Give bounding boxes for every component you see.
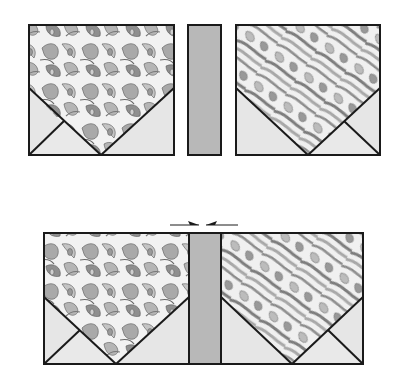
quilt-assembly-diagram (0, 0, 399, 372)
top-right-panel (236, 25, 380, 155)
top-left-panel (29, 25, 174, 155)
assembled-sashing-strip (189, 233, 221, 364)
join-arrows (170, 221, 238, 225)
left-arrowhead-icon (188, 221, 199, 225)
top-sashing-strip (188, 25, 221, 155)
assembled-block (44, 233, 363, 364)
right-arrowhead-icon (206, 221, 217, 225)
